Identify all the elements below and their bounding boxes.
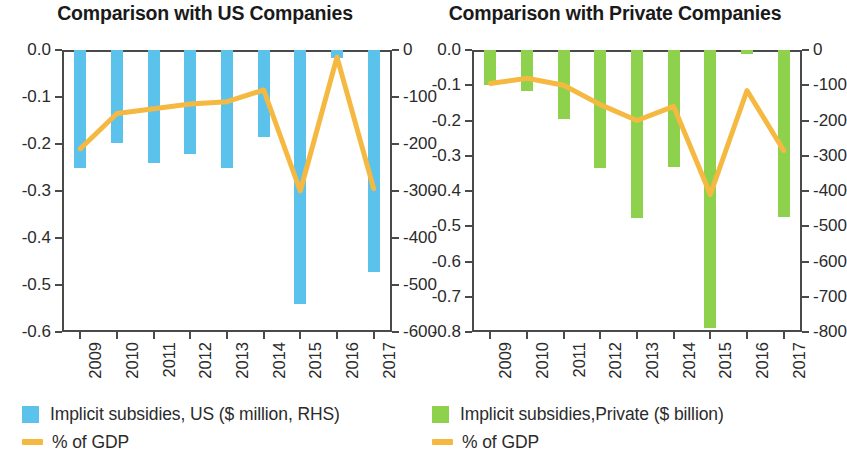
x-tick bbox=[709, 332, 711, 339]
x-tick bbox=[746, 332, 748, 339]
y-tick-left bbox=[55, 331, 62, 333]
legend-us: Implicit subsidies, US ($ million, RHS)%… bbox=[22, 400, 412, 456]
legend-private: Implicit subsidies,Private ($ billion)% … bbox=[432, 400, 822, 456]
x-tick bbox=[636, 332, 638, 339]
x-tick bbox=[563, 332, 565, 339]
legend-label: % of GDP bbox=[462, 432, 539, 453]
y-tick-right bbox=[392, 284, 399, 286]
y-tick-left bbox=[465, 120, 472, 122]
y-tick-label-left: -0.6 bbox=[22, 323, 51, 340]
chart-panel-us: Comparison with US Companies 0.0-0.1-0.2… bbox=[0, 0, 410, 462]
y-tick-label-left: -0.3 bbox=[432, 147, 461, 164]
legend-line-swatch-icon bbox=[432, 439, 453, 445]
x-tick bbox=[189, 332, 191, 339]
plot-area-private: 0.0-0.1-0.2-0.3-0.4-0.5-0.6-0.7-0.8 0-10… bbox=[472, 50, 802, 332]
y-tick-label-right: -800 bbox=[813, 323, 847, 340]
x-tick bbox=[153, 332, 155, 339]
y-tick-label-right: -300 bbox=[813, 147, 847, 164]
y-tick-right bbox=[802, 296, 809, 298]
y-tick-right bbox=[802, 84, 809, 86]
y-tick-label-right: 0 bbox=[813, 41, 822, 58]
y-tick-label-left: 0.0 bbox=[27, 41, 51, 58]
y-tick-label-left: -0.4 bbox=[22, 229, 51, 246]
x-tick bbox=[226, 332, 228, 339]
x-tick-label-2010: 2010 bbox=[124, 342, 141, 379]
x-tick bbox=[263, 332, 265, 339]
x-tick bbox=[116, 332, 118, 339]
y-tick-left bbox=[465, 261, 472, 263]
x-tick bbox=[673, 332, 675, 339]
y-tick-label-left: -0.1 bbox=[432, 76, 461, 93]
y-tick-label-left: -0.2 bbox=[22, 135, 51, 152]
y-tick-label-left: 0.0 bbox=[437, 41, 461, 58]
line-series-gdp-us bbox=[62, 50, 392, 332]
y-tick-right bbox=[802, 225, 809, 227]
legend-row: Implicit subsidies, US ($ million, RHS) bbox=[22, 400, 412, 428]
x-tick-label-2010: 2010 bbox=[534, 342, 551, 379]
y-tick-left bbox=[465, 155, 472, 157]
y-tick-label-left: -0.2 bbox=[432, 112, 461, 129]
x-tick-label-2012: 2012 bbox=[607, 342, 624, 379]
x-tick-label-2013: 2013 bbox=[644, 342, 661, 379]
y-tick-right bbox=[392, 331, 399, 333]
x-tick bbox=[526, 332, 528, 339]
y-tick-label-right: -700 bbox=[813, 288, 847, 305]
x-tick-label-2015: 2015 bbox=[717, 342, 734, 379]
chart-panel-private: Comparison with Private Companies 0.0-0.… bbox=[410, 0, 820, 462]
y-tick-label-right: -500 bbox=[813, 217, 847, 234]
y-tick-right bbox=[802, 49, 809, 51]
legend-label: Implicit subsidies,Private ($ billion) bbox=[460, 404, 724, 425]
x-tick bbox=[599, 332, 601, 339]
chart-title-us: Comparison with US Companies bbox=[0, 2, 410, 25]
y-tick-right bbox=[392, 49, 399, 51]
x-tick-label-2014: 2014 bbox=[271, 342, 288, 379]
y-tick-left bbox=[465, 49, 472, 51]
legend-bar-swatch-icon bbox=[432, 406, 449, 423]
legend-label: Implicit subsidies, US ($ million, RHS) bbox=[50, 404, 340, 425]
y-tick-left bbox=[465, 84, 472, 86]
y-tick-left bbox=[465, 190, 472, 192]
line-series-gdp-private bbox=[472, 50, 802, 332]
x-tick-label-2011: 2011 bbox=[571, 342, 588, 377]
y-tick-left bbox=[55, 143, 62, 145]
x-tick bbox=[373, 332, 375, 339]
y-tick-label-right: -200 bbox=[813, 112, 847, 129]
gdp-line-path bbox=[490, 78, 783, 194]
x-tick-label-2012: 2012 bbox=[197, 342, 214, 379]
y-tick-left bbox=[465, 296, 472, 298]
x-tick-label-2014: 2014 bbox=[681, 342, 698, 379]
x-tick bbox=[299, 332, 301, 339]
legend-row: Implicit subsidies,Private ($ billion) bbox=[432, 400, 822, 428]
x-tick-label-2017: 2017 bbox=[381, 342, 398, 379]
legend-row: % of GDP bbox=[22, 428, 412, 456]
y-tick-label-left: -0.3 bbox=[22, 182, 51, 199]
y-tick-left bbox=[465, 331, 472, 333]
gdp-line-path bbox=[80, 57, 373, 191]
y-tick-right bbox=[392, 190, 399, 192]
y-tick-label-left: -0.1 bbox=[22, 88, 51, 105]
y-tick-left bbox=[465, 225, 472, 227]
x-tick bbox=[783, 332, 785, 339]
y-tick-right bbox=[392, 96, 399, 98]
y-tick-left bbox=[55, 284, 62, 286]
x-tick bbox=[79, 332, 81, 339]
y-tick-label-left: -0.7 bbox=[432, 288, 461, 305]
x-tick-label-2011: 2011 bbox=[161, 342, 178, 377]
x-tick bbox=[336, 332, 338, 339]
y-tick-label-right: -600 bbox=[813, 253, 847, 270]
y-tick-right bbox=[802, 261, 809, 263]
y-tick-left bbox=[55, 237, 62, 239]
legend-line-swatch-icon bbox=[22, 439, 43, 445]
legend-bar-swatch-icon bbox=[22, 406, 39, 423]
y-tick-label-left: -0.8 bbox=[432, 323, 461, 340]
x-tick bbox=[489, 332, 491, 339]
chart-title-private: Comparison with Private Companies bbox=[410, 2, 820, 25]
y-tick-label-left: -0.5 bbox=[22, 276, 51, 293]
y-tick-right bbox=[802, 190, 809, 192]
x-tick-label-2009: 2009 bbox=[497, 342, 514, 379]
y-tick-label-left: -0.6 bbox=[432, 253, 461, 270]
y-tick-right bbox=[802, 155, 809, 157]
y-tick-label-left: -0.5 bbox=[432, 217, 461, 234]
x-tick-label-2009: 2009 bbox=[87, 342, 104, 379]
